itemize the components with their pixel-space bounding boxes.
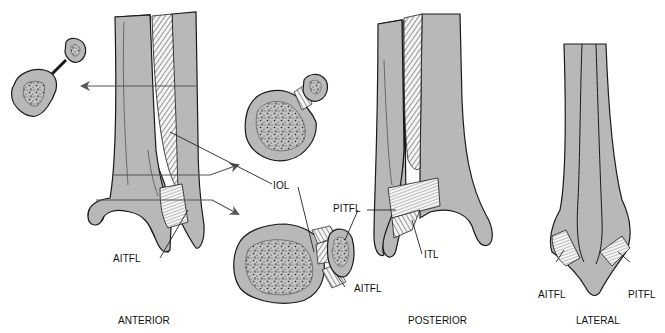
diagram-canvas: [0, 0, 665, 333]
view-title-anterior: ANTERIOR: [118, 316, 170, 326]
label-pitfl-cross-section: PITFL: [333, 204, 361, 214]
label-aitfl-anterior: AITFL: [113, 254, 141, 264]
label-pitfl-lateral: PITFL: [628, 290, 656, 300]
label-aitfl-cross-section: AITFL: [354, 284, 382, 294]
lateral-view: [550, 44, 630, 295]
posterior-view: [374, 14, 492, 257]
cross-section-mid: [245, 74, 327, 160]
label-itl: ITL: [424, 250, 439, 260]
view-title-lateral: LATERAL: [576, 316, 620, 326]
interosseous-ligament-posterior: [404, 14, 422, 170]
cross-section-distal: [234, 224, 354, 303]
tibia-posterior: [420, 14, 492, 246]
anterior-view: [88, 12, 204, 252]
cross-section-proximal: [12, 38, 86, 116]
label-iol: IOL: [273, 181, 289, 191]
label-aitfl-lateral: AITFL: [538, 290, 566, 300]
view-title-posterior: POSTERIOR: [408, 316, 467, 326]
syndesmosis-diagram: IOL AITFL PITFL AITFL ITL AITFL PITFL AN…: [0, 0, 665, 333]
